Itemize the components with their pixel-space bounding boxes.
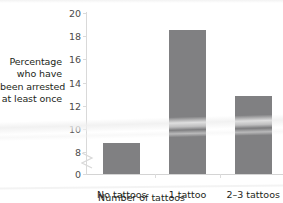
y-axis-label-line-2: who have [0, 68, 62, 80]
chart-figure: Percentage who have been arrested at lea… [0, 0, 283, 203]
x-tick-mark [155, 174, 156, 178]
y-tick-label: 20 [69, 8, 81, 19]
y-tick-label: 12 [69, 100, 81, 111]
axis-break-icon [81, 152, 94, 169]
y-tick-label: 16 [69, 54, 81, 65]
y-tick-label: 0 [75, 169, 81, 180]
x-axis-line [86, 174, 283, 175]
y-tick-mark [83, 106, 87, 107]
y-tick-mark [83, 36, 87, 37]
y-tick-label: 10 [69, 123, 81, 134]
y-tick-mark [83, 59, 87, 60]
y-tick-label: 14 [69, 77, 81, 88]
y-axis-label-line-4: at least once [0, 93, 62, 105]
y-axis-label-line-1: Percentage [0, 56, 62, 68]
y-axis-label-line-3: been arrested [0, 81, 62, 93]
y-axis-label: Percentage who have been arrested at lea… [0, 56, 62, 105]
y-tick-mark [83, 13, 87, 14]
x-axis-title: Number of tattoos [0, 192, 283, 203]
plot-area: 20181614121080 No tattoos1 tattoo2–3 tat… [86, 12, 258, 175]
y-tick-mark [83, 129, 87, 130]
bar [169, 30, 206, 174]
y-tick-mark [83, 174, 87, 175]
y-tick-mark [83, 83, 87, 84]
bar [235, 96, 272, 174]
bar [103, 143, 140, 174]
x-tick-mark [220, 174, 221, 178]
y-tick-label: 18 [69, 31, 81, 42]
scan-artifact-top [0, 0, 283, 3]
